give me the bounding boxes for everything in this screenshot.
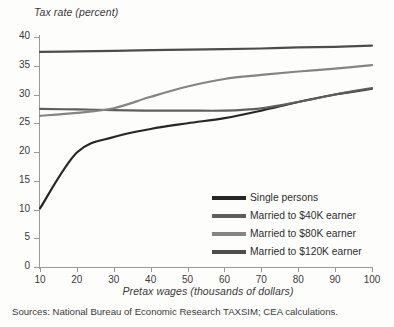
legend-label: Married to $80K earner: [250, 228, 356, 239]
legend-swatch: [212, 196, 246, 200]
legend-item: Married to $80K earner: [212, 226, 362, 241]
chart-figure: Tax rate (percent) 0510152025303540 1020…: [0, 0, 394, 327]
legend-swatch: [212, 214, 246, 218]
legend-label: Single persons: [250, 192, 318, 203]
series-line: [40, 65, 372, 116]
legend-item: Married to $120K earner: [212, 244, 362, 259]
legend-item: Married to $40K earner: [212, 208, 362, 223]
legend-swatch: [212, 232, 246, 236]
series-lines: [0, 0, 394, 327]
legend-item: Single persons: [212, 190, 362, 205]
legend-swatch: [212, 250, 246, 254]
chart-legend: Single personsMarried to $40K earnerMarr…: [212, 190, 362, 259]
source-note: Sources: National Bureau of Economic Res…: [12, 306, 338, 317]
legend-label: Married to $40K earner: [250, 210, 356, 221]
legend-label: Married to $120K earner: [250, 246, 362, 257]
series-line: [40, 88, 372, 111]
series-line: [40, 46, 372, 52]
x-axis-title: Pretax wages (thousands of dollars): [0, 285, 394, 297]
